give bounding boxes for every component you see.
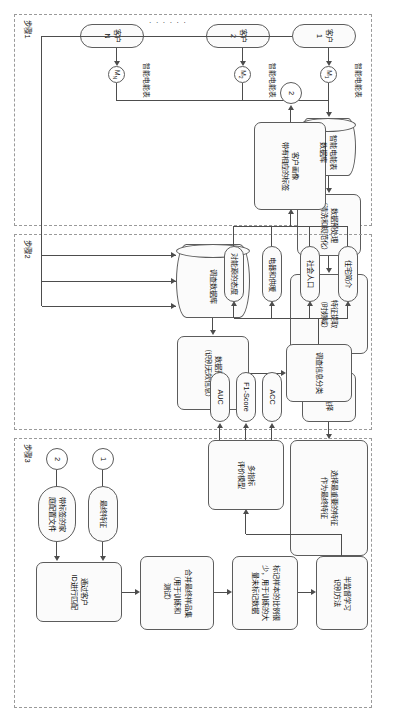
arrow-cust2-meter <box>240 61 246 66</box>
step3-input-final-feature: 最终特征 <box>88 486 118 542</box>
line-meter2-bus <box>242 83 243 100</box>
meter-1: M1 <box>320 66 337 83</box>
line-ratio-to-ssl <box>298 592 312 593</box>
line-profile-to-connector2 <box>290 110 291 122</box>
line-ssl-eval-drop <box>246 534 342 535</box>
line-cust-feed-v3 <box>42 36 80 37</box>
line-eval-to-auc <box>219 428 220 440</box>
line-cat4-out <box>233 226 234 246</box>
arrow-eval-to-acc <box>269 423 275 428</box>
arrow-eval-to-auc <box>217 423 223 428</box>
step3-evaluation-model: 多指标 评价模型 <box>208 440 284 510</box>
panel-step2-label: 步骤2 <box>23 240 34 259</box>
line-cust1-meter <box>328 48 329 61</box>
meter-1-caption: 智能电能表 <box>354 63 364 98</box>
line-db-to-preprocess <box>328 176 329 188</box>
line-category-bus <box>234 318 348 319</box>
connector-in-2: 2 <box>46 448 68 470</box>
line-conn2-to-profile <box>56 470 57 486</box>
line-match-to-merge <box>122 592 136 593</box>
line-conn1-to-feature <box>102 470 103 486</box>
line-feature-to-match <box>102 542 103 556</box>
line-profile-to-match <box>56 542 57 556</box>
line-ssl-to-eval <box>341 534 342 556</box>
arrow-eval-to-f1 <box>243 423 249 428</box>
connector-in-1: 1 <box>92 448 114 470</box>
arrow-db-to-preprocess <box>326 188 332 193</box>
survey-database-label: 调查数据库 <box>208 259 218 304</box>
category-energy-attitude: 对能源的态度 <box>224 246 244 302</box>
meter-2-label: M2 <box>238 70 247 78</box>
meter-2: M2 <box>234 66 251 83</box>
arrow-survey-feed-b <box>171 278 176 284</box>
category-appliances-heating: 电器和供暖 <box>262 246 282 302</box>
line-eval-to-f1 <box>245 428 246 440</box>
line-cat-4 <box>233 306 234 318</box>
step3-input-labeled-profile: 带标签的家 庭配置文件 <box>38 486 76 542</box>
metric-auc: AUC <box>210 372 230 422</box>
arrow-profile-to-connector2 <box>288 105 294 110</box>
line-profile-bus <box>234 226 348 227</box>
arrow-survey-feed-a <box>171 252 176 258</box>
meter-1-label: M1 <box>324 70 333 78</box>
customer-ellipsis: · · · · · · <box>148 18 186 27</box>
arrow-profile-to-match <box>54 556 60 561</box>
category-demographics: 社会人口 <box>300 246 320 302</box>
line-custn-meter <box>116 48 117 61</box>
line-bus-to-db <box>328 100 329 112</box>
connector-out-2: 2 <box>280 82 302 104</box>
step3-label-ratio: 标记样本的比例很 少，用于训练的大 量未标记数据 <box>232 556 298 630</box>
metric-acc: ACC <box>262 372 282 422</box>
step2-customer-profile: 客户画像 带有相应的标签 <box>254 122 326 210</box>
line-cust-feed-bottom <box>41 36 42 306</box>
metric-f1-score: F1-Score <box>236 372 256 422</box>
line-meter1-bus <box>328 83 329 100</box>
meter-n-label: MN <box>112 70 121 79</box>
line-cust2-meter <box>242 48 243 61</box>
line-cat2-out <box>309 226 310 246</box>
arrow-surveydb-to-preprocess <box>210 330 216 335</box>
meter-n-caption: 智能电能表 <box>142 63 152 98</box>
line-metern-bus <box>116 83 117 100</box>
line-survey-feed-b <box>42 281 176 282</box>
arrow-bus-to-db <box>326 112 332 117</box>
line-cat-2 <box>309 306 310 318</box>
meter-2-caption: 智能电能表 <box>268 63 278 98</box>
line-survey-feed-c <box>42 306 176 307</box>
line-cat3-out <box>271 226 272 246</box>
category-residential: 住宅简介 <box>338 246 358 302</box>
step2-classify: 调查信息分类 <box>286 344 352 402</box>
line-classify-to-bus <box>318 318 319 344</box>
customer-1: 客户1 <box>292 24 356 48</box>
line-eval-feed <box>245 514 246 534</box>
arrow-survey-feed-c <box>171 303 176 309</box>
arrow-custn-meter <box>114 61 120 66</box>
line-survey-feed-a <box>42 255 176 256</box>
line-cat1-out <box>347 226 348 246</box>
step3-merge-sample-set: 合并最终样品集 （用于训练和 测试） <box>140 556 214 630</box>
step3-match-by-id: 通过客户 ID进行匹配 <box>36 562 122 622</box>
flowchart-figure: 步骤1 客户1 客户2 客户N · · · · · · M1 M2 MN 智能电… <box>0 0 394 721</box>
panel-step3-label: 步骤3 <box>23 444 34 463</box>
line-cat-3 <box>271 306 272 318</box>
line-surveydb-to-preprocess <box>212 318 213 330</box>
line-cat-1 <box>347 306 348 318</box>
line-merge-to-ssl <box>214 592 228 593</box>
line-eval-to-acc <box>271 428 272 440</box>
arrow-cust1-meter <box>326 61 332 66</box>
smart-meter-database-label: 智能电能表 数据库 <box>318 125 339 170</box>
step3-ssl-method: 半监督学习 识别方法 <box>316 556 368 630</box>
panel-step1-label: 步骤1 <box>23 20 34 39</box>
arrow-feature-to-match <box>100 556 106 561</box>
meter-n: MN <box>108 66 125 83</box>
line-bus-to-profile <box>290 214 291 226</box>
